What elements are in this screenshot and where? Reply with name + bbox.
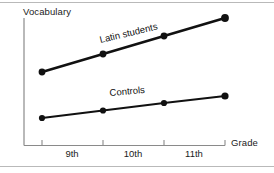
controls-point [161,100,167,106]
y-axis-title: Vocabulary [23,6,71,17]
controls-line [42,96,225,118]
controls-point [221,92,228,99]
x-tick-label-10th: 10th [113,148,153,159]
controls-point [100,107,106,113]
controls-point [39,115,45,121]
x-axis-title: Grade [231,137,258,148]
series-latin-students [39,14,229,75]
x-tick-label-9th: 9th [52,148,92,159]
latin-students-point [39,69,46,76]
x-tick-label-11th: 11th [174,148,214,159]
latin-students-point [161,33,168,40]
chart-figure: Vocabulary Grade 9th 10th 11th Latin stu… [0,0,274,173]
latin-students-point [100,51,107,58]
series-controls [39,92,229,121]
latin-students-point [221,14,229,22]
